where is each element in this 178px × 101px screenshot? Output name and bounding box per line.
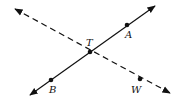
point-a: A: [124, 23, 132, 40]
point-b-dot: [49, 78, 54, 83]
point-w-label: W: [131, 84, 142, 95]
point-a-label: A: [124, 29, 132, 40]
solid-line-ba: [30, 6, 155, 95]
point-b-label: B: [48, 84, 56, 95]
point-t-label: T: [86, 37, 94, 48]
diagram-canvas: T A B W: [0, 0, 178, 101]
point-t-dot: [88, 50, 93, 55]
point-t: T: [86, 37, 94, 54]
point-a-dot: [125, 23, 130, 28]
point-w: W: [131, 77, 142, 95]
point-b: B: [48, 78, 56, 95]
point-w-dot: [138, 77, 143, 82]
geometry-diagram: T A B W: [0, 0, 178, 101]
